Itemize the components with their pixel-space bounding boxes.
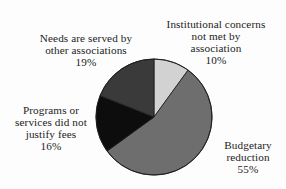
pie-label-needs-percent: 19% <box>14 56 158 68</box>
pie-label-needs: Needs are served by other associations 1… <box>14 20 158 80</box>
pie-label-institutional-percent: 10% <box>146 54 286 66</box>
pie-label-budgetary-percent: 55% <box>212 163 284 175</box>
pie-label-programs-percent: 16% <box>2 140 100 152</box>
pie-label-institutional: Institutional concerns not met by associ… <box>146 6 286 79</box>
pie-label-institutional-text: Institutional concerns not met by associ… <box>167 18 266 54</box>
pie-label-programs: Programs or services did not justify fee… <box>2 92 100 165</box>
pie-label-budgetary-text: Budgetary reduction <box>224 139 272 163</box>
pie-label-budgetary: Budgetary reduction 55% <box>212 127 284 187</box>
pie-chart-figure: Institutional concerns not met by associ… <box>0 0 286 189</box>
pie-label-needs-text: Needs are served by other associations <box>40 32 132 56</box>
pie-label-programs-text: Programs or services did not justify fee… <box>15 104 87 140</box>
